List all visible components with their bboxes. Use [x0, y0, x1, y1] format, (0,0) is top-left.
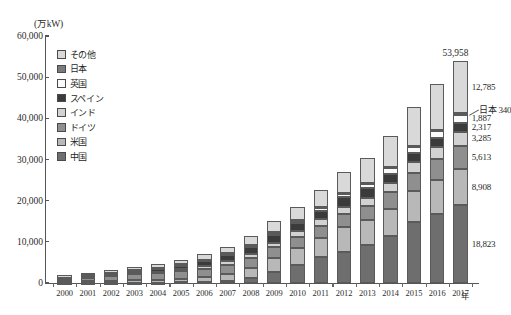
legend-label: スペイン	[70, 92, 104, 105]
bar-segment	[407, 147, 421, 153]
bar-column	[453, 61, 467, 283]
legend-label: 英国	[70, 77, 88, 90]
bar-segment	[453, 146, 467, 169]
legend-label: その他	[70, 48, 96, 61]
bar-segment	[314, 238, 328, 257]
legend-item-中国: 中国	[57, 149, 104, 164]
x-tick-mark	[216, 283, 217, 287]
bar-segment	[57, 278, 71, 280]
bar-segment	[453, 169, 467, 206]
bar-segment	[430, 138, 444, 148]
x-tick-label: 2006	[196, 289, 213, 298]
legend-label: 日本	[70, 62, 88, 75]
bar-segment	[407, 153, 421, 162]
legend-swatch	[57, 50, 66, 59]
bar-segment	[104, 281, 118, 283]
bar-segment	[290, 265, 304, 283]
x-tick-mark	[100, 283, 101, 287]
y-tick-label: 50,000	[17, 72, 43, 82]
bar-segment	[220, 247, 234, 254]
bar-segment	[151, 264, 165, 268]
bar-segment	[314, 190, 328, 207]
x-tick-mark	[169, 283, 170, 287]
y-tick-label: 30,000	[17, 155, 43, 165]
bar-segment	[453, 132, 467, 146]
bar-segment	[244, 236, 258, 245]
bar-segment	[197, 269, 211, 278]
bar-segment	[104, 273, 118, 275]
y-tick-mark	[45, 118, 49, 119]
bar-segment	[383, 236, 397, 283]
x-tick-label: 2015	[406, 289, 423, 298]
bar-segment	[244, 254, 258, 258]
bar-segment	[453, 61, 467, 114]
bar-segment	[220, 255, 234, 261]
legend-label: 中国	[70, 150, 88, 163]
x-tick-label: 2014	[382, 289, 399, 298]
bar-segment	[127, 267, 141, 270]
legend-label: 米国	[70, 135, 88, 148]
x-tick-mark	[76, 283, 77, 287]
legend-swatch	[57, 123, 66, 132]
bar-segment	[453, 205, 467, 282]
x-axis-unit-label: 年	[461, 289, 469, 301]
bar-segment	[314, 219, 328, 226]
bar-segment	[407, 173, 421, 192]
bar-segment	[220, 274, 234, 281]
bar-segment	[430, 159, 444, 180]
bar-segment	[220, 281, 234, 283]
bar-column	[174, 260, 188, 283]
bar-segment	[430, 130, 444, 132]
bar-segment	[127, 270, 141, 272]
x-tick-mark	[449, 283, 450, 287]
x-tick-mark	[472, 283, 473, 287]
bar-segment	[360, 206, 374, 220]
bar-segment	[57, 275, 71, 277]
bar-segment	[104, 270, 118, 273]
x-tick-label: 2010	[289, 289, 306, 298]
bar-column	[267, 221, 281, 283]
bar-segment	[244, 278, 258, 283]
x-tick-label: 2001	[80, 289, 97, 298]
bar-segment	[360, 220, 374, 245]
bar-segment	[337, 207, 351, 215]
bar-segment	[407, 107, 421, 146]
segment-value-label: 8,908	[472, 182, 491, 192]
legend-item-ドイツ: ドイツ	[57, 120, 104, 135]
bar-segment	[127, 280, 141, 283]
x-tick-label: 2005	[173, 289, 190, 298]
y-tick-mark	[45, 282, 49, 283]
bar-segment	[290, 237, 304, 248]
bar-column	[197, 254, 211, 283]
x-tick-label: 2008	[243, 289, 260, 298]
bar-segment	[151, 283, 165, 285]
bar-column	[383, 136, 397, 283]
x-tick-mark	[193, 283, 194, 287]
bar-segment	[290, 231, 304, 236]
legend-item-英国: 英国	[57, 76, 104, 91]
legend-item-米国: 米国	[57, 135, 104, 150]
x-tick-mark	[123, 283, 124, 287]
bar-segment	[151, 280, 165, 283]
y-tick-mark	[45, 200, 49, 201]
x-tick-label: 2011	[313, 289, 329, 298]
bar-segment	[267, 272, 281, 283]
bar-column	[81, 273, 95, 283]
y-axis-unit-label: (万kW)	[34, 16, 63, 30]
legend-swatch	[57, 138, 66, 147]
bar-segment	[151, 268, 165, 270]
bar-segment	[174, 271, 188, 279]
bar-segment	[360, 183, 374, 185]
bar-column	[220, 247, 234, 283]
bar-column	[244, 236, 258, 283]
bar-segment	[314, 207, 328, 209]
bar-column	[290, 207, 304, 283]
bar-segment	[360, 198, 374, 206]
bar-segment	[244, 247, 258, 254]
bar-segment	[407, 222, 421, 283]
x-tick-mark	[402, 283, 403, 287]
bar-segment	[220, 261, 234, 264]
bar-segment	[267, 247, 281, 258]
bar-segment	[383, 192, 397, 208]
bar-segment	[220, 253, 234, 255]
